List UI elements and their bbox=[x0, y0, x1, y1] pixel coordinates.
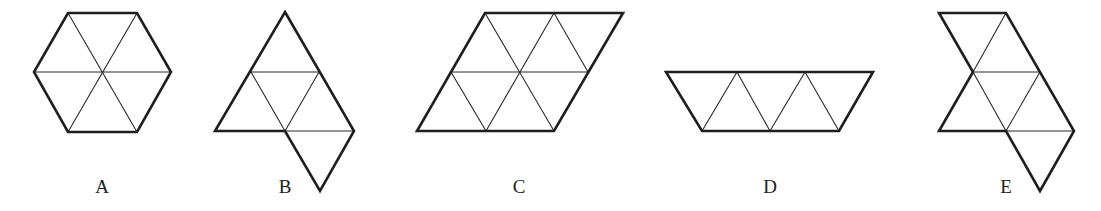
figure-canvas: A B C D E bbox=[0, 0, 1101, 211]
figure-e-shape bbox=[939, 13, 1074, 191]
figure-c-parallelogram bbox=[417, 13, 623, 131]
figure-b-shape bbox=[215, 12, 354, 191]
label-e: E bbox=[986, 176, 1026, 198]
label-d: D bbox=[750, 176, 790, 198]
label-b: B bbox=[265, 176, 305, 198]
figure-d-trapezoid bbox=[666, 72, 873, 131]
figure-a-hexagon bbox=[34, 13, 171, 132]
label-a: A bbox=[82, 176, 122, 198]
label-c: C bbox=[499, 176, 539, 198]
shapes-svg bbox=[0, 0, 1101, 211]
